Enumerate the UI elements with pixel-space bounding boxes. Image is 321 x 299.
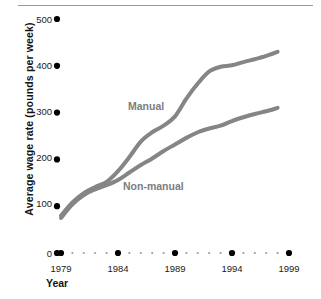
y-axis-dot-markers: [54, 16, 60, 256]
x-axis-minor-dot-1991: [197, 252, 199, 254]
x-axis-major-dot-1994: [229, 250, 235, 256]
y-axis-dot-400: [54, 63, 60, 69]
x-axis-minor-dot-1997: [265, 252, 267, 254]
x-axis-major-dot-1979: [58, 250, 64, 256]
y-axis-dot-100: [54, 203, 60, 209]
x-axis-minor-dot-1990: [185, 252, 187, 254]
x-axis-minor-dot-1988: [163, 252, 165, 254]
x-axis-minor-dot-1985: [128, 252, 130, 254]
x-axis-dot-markers: [58, 250, 292, 256]
x-axis-minor-dot-1980: [71, 252, 73, 254]
x-axis-minor-dot-1998: [277, 252, 279, 254]
plot-area: [0, 0, 321, 299]
x-axis-minor-dot-1987: [151, 252, 153, 254]
series-line-non-manual: [61, 108, 278, 218]
x-axis-minor-dot-1992: [208, 252, 210, 254]
x-axis-minor-dot-1986: [140, 252, 142, 254]
y-axis-dot-200: [54, 156, 60, 162]
x-axis-minor-dot-1993: [220, 252, 222, 254]
x-axis-major-dot-1989: [172, 250, 178, 256]
x-axis-major-dot-1984: [115, 250, 121, 256]
x-axis-major-dot-1999: [286, 250, 292, 256]
x-axis-minor-dot-1981: [83, 252, 85, 254]
x-axis-minor-dot-1996: [254, 252, 256, 254]
x-axis-minor-dot-1983: [106, 252, 108, 254]
y-axis-dot-300: [54, 110, 60, 116]
x-axis-minor-dot-1995: [242, 252, 244, 254]
x-axis-minor-dot-1982: [94, 252, 96, 254]
y-axis-dot-500: [54, 16, 60, 22]
series-lines-group: [61, 52, 278, 218]
chart-container: Average wage rate (pounds per week) 500 …: [0, 0, 321, 299]
